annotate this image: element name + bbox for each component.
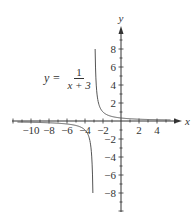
y-tick-label: −4 — [104, 151, 116, 163]
y-axis-label: y — [118, 12, 124, 24]
axes — [12, 26, 182, 212]
x-tick-label: −10 — [22, 124, 40, 136]
equation-numerator: 1 — [74, 66, 84, 79]
y-axis-arrow-icon — [119, 26, 124, 34]
y-tick-label: −6 — [104, 169, 116, 181]
function-plot: −10−8−6−4−2248642−2−4−6−8xy — [0, 0, 194, 222]
x-tick-label: −4 — [79, 124, 91, 136]
y-tick-label: 6 — [111, 61, 117, 73]
y-tick-label: −2 — [104, 133, 116, 145]
x-axis-label: x — [184, 115, 190, 127]
tick-labels: −10−8−6−4−2248642−2−4−6−8xy — [22, 12, 190, 199]
y-tick-label: 2 — [111, 97, 117, 109]
y-tick-label: −8 — [104, 187, 116, 199]
x-tick-label: −6 — [61, 124, 73, 136]
x-tick-label: 4 — [154, 124, 160, 136]
equation-denominator: x + 3 — [65, 79, 92, 91]
equation-fraction: 1 x + 3 — [65, 66, 92, 91]
y-tick-label: 8 — [111, 43, 117, 55]
x-tick-label: 2 — [136, 124, 142, 136]
equation-label: y = 1 x + 3 — [44, 66, 93, 91]
x-tick-label: −8 — [43, 124, 55, 136]
curve-right-branch — [95, 49, 170, 120]
y-tick-label: 4 — [111, 79, 117, 91]
equation-lhs: y = — [44, 71, 60, 86]
